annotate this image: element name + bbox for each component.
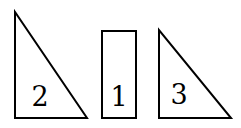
triangle-2-label: 2 bbox=[31, 81, 48, 112]
rectangle-1-label: 1 bbox=[110, 81, 127, 112]
triangle-3-label: 3 bbox=[170, 79, 187, 110]
shapes-diagram: 2 1 3 bbox=[0, 0, 241, 128]
triangle-2 bbox=[15, 12, 87, 118]
